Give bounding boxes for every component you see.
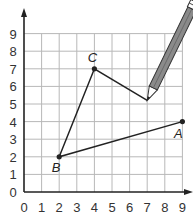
y-tick-labels: 0123456789 [9, 27, 16, 200]
x-tick-label: 1 [38, 200, 45, 215]
x-tick-label: 3 [73, 200, 80, 215]
y-tick-label: 8 [9, 44, 16, 59]
y-tick-label: 7 [9, 62, 16, 77]
axes [21, 8, 193, 195]
y-tick-label: 6 [9, 79, 16, 94]
x-axis-arrow [184, 189, 193, 195]
x-tick-labels: 0123456789 [20, 200, 186, 215]
y-tick-label: 3 [9, 132, 16, 147]
point-label-b: B [52, 160, 61, 175]
y-tick-label: 2 [9, 150, 16, 165]
x-tick-label: 4 [91, 200, 98, 215]
y-tick-label: 4 [9, 115, 16, 130]
y-tick-label: 0 [9, 185, 16, 200]
coordinate-grid-figure: 0123456789 0123456789 ABC [0, 0, 193, 218]
y-tick-label: 9 [9, 27, 16, 42]
point-label-a: A [173, 126, 183, 141]
y-tick-label: 5 [9, 97, 16, 112]
x-tick-label: 2 [56, 200, 63, 215]
polyline-path [59, 69, 182, 157]
x-tick-label: 7 [144, 200, 151, 215]
x-tick-label: 5 [108, 200, 115, 215]
point-a [180, 119, 185, 124]
grid-lines [24, 34, 182, 192]
pencil-shaft-line [153, 9, 192, 88]
point-label-c: C [88, 50, 98, 65]
x-tick-label: 6 [126, 200, 133, 215]
point-c [92, 66, 97, 71]
y-tick-label: 1 [9, 167, 16, 182]
x-tick-label: 0 [20, 200, 27, 215]
y-axis-arrow [21, 8, 27, 17]
x-tick-label: 8 [161, 200, 168, 215]
point-b [57, 154, 62, 159]
x-tick-label: 9 [179, 200, 186, 215]
drawn-path [59, 69, 182, 157]
